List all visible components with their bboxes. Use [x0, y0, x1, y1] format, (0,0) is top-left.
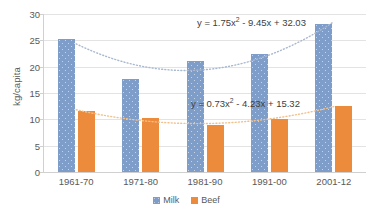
- legend-item-milk[interactable]: Milk: [153, 195, 179, 205]
- legend-swatch-milk-icon: [153, 197, 160, 204]
- legend-label-milk: Milk: [163, 195, 179, 205]
- x-axis-ticks: 1961-701971-801981-901991-002001-12: [44, 176, 366, 190]
- x-axis-line: [44, 172, 366, 173]
- y-axis-ticks: 051015202530: [0, 0, 40, 212]
- y-tick-label: 5: [4, 140, 40, 151]
- bar-beef-1981-90: [207, 125, 224, 172]
- bar-beef-2001-12: [335, 106, 352, 172]
- milk-equation-prefix: y = 1.75x: [197, 17, 236, 28]
- legend-label-beef: Beef: [201, 195, 220, 205]
- bar-beef-1971-80: [142, 118, 159, 172]
- bar-milk-1991-00: [251, 54, 268, 172]
- bar-beef-1991-00: [271, 119, 288, 172]
- chart-container: kg/capita 051015202530 y = 1.75x2 - 9.45…: [0, 0, 373, 212]
- y-tick-label: 20: [4, 61, 40, 72]
- bar-milk-1981-90: [187, 61, 204, 172]
- milk-equation-suffix: - 9.45x + 32.03: [240, 17, 306, 28]
- beef-equation-prefix: y = 0.73x: [191, 98, 230, 109]
- x-tick-label-2001-12: 2001-12: [316, 176, 351, 187]
- y-tick-label: 25: [4, 35, 40, 46]
- bar-milk-2001-12: [315, 24, 332, 172]
- milk-trendline-equation: y = 1.75x2 - 9.45x + 32.03: [197, 16, 306, 28]
- y-tick-label: 30: [4, 9, 40, 20]
- beef-equation-suffix: - 4.23x + 15.32: [234, 98, 300, 109]
- y-tick-label: 10: [4, 114, 40, 125]
- x-tick-label-1961-70: 1961-70: [59, 176, 94, 187]
- y-tick-label: 15: [4, 88, 40, 99]
- legend-item-beef[interactable]: Beef: [191, 195, 220, 205]
- x-tick-label-1971-80: 1971-80: [123, 176, 158, 187]
- bar-milk-1961-70: [58, 39, 75, 172]
- beef-trendline-equation: y = 0.73x2 - 4.23x + 15.32: [191, 97, 300, 109]
- plot-area: [44, 14, 366, 172]
- y-tick-label: 0: [4, 167, 40, 178]
- legend-swatch-beef-icon: [191, 197, 198, 204]
- gridline: [44, 14, 366, 15]
- bar-beef-1961-70: [78, 111, 95, 172]
- x-tick-label-1981-90: 1981-90: [188, 176, 223, 187]
- x-tick-label-1991-00: 1991-00: [252, 176, 287, 187]
- chart-legend: MilkBeef: [0, 195, 373, 205]
- bar-milk-1971-80: [122, 79, 139, 172]
